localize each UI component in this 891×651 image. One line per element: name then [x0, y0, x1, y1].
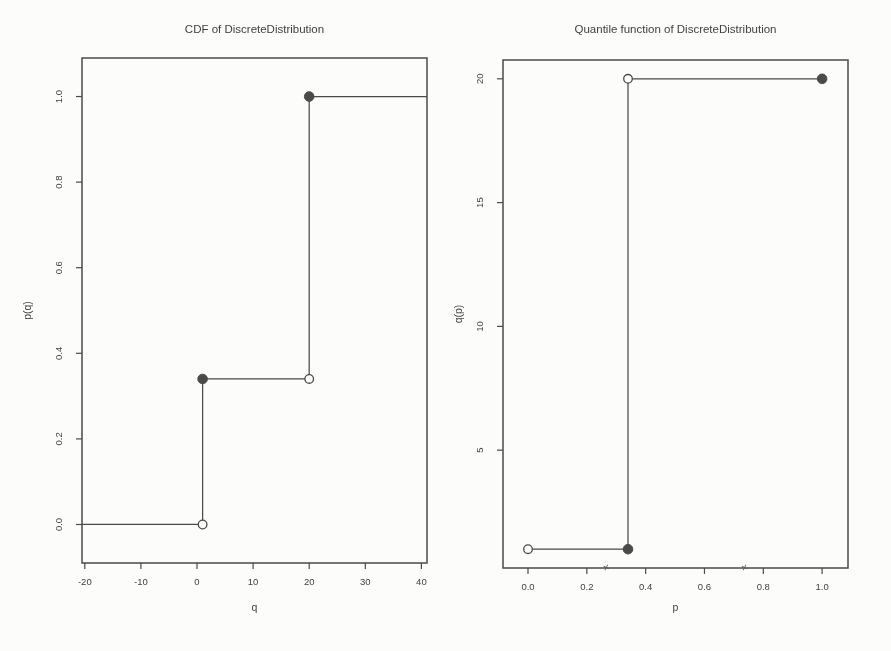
x-tick-label: -10	[134, 576, 148, 587]
x-tick-label: 40	[416, 576, 427, 587]
quantile-plot: Quantile function of DiscreteDistributio…	[452, 23, 848, 613]
y-tick-label: 0.4	[53, 347, 64, 360]
open-point	[524, 545, 533, 554]
y-tick-label: 10	[474, 321, 485, 332]
plot-box	[82, 58, 427, 563]
plot-box	[503, 60, 848, 568]
x-tick-label: -20	[78, 576, 92, 587]
y-axis-label: q(p)	[452, 305, 464, 324]
y-tick-label: 0.0	[53, 518, 64, 531]
open-point	[198, 520, 207, 529]
y-tick-label: 15	[474, 197, 485, 208]
x-tick-label: 0.6	[698, 581, 711, 592]
x-tick-label: 20	[304, 576, 315, 587]
x-tick-label: 1.0	[816, 581, 829, 592]
y-tick-label: 1.0	[53, 90, 64, 103]
x-tick-label: 0.0	[521, 581, 534, 592]
y-tick-label: 0.2	[53, 432, 64, 445]
x-tick-label: 10	[248, 576, 259, 587]
cdf-plot: CDF of DiscreteDistribution-20-100102030…	[21, 23, 427, 613]
x-tick-label: 0.4	[639, 581, 652, 592]
y-tick-label: 0.8	[53, 176, 64, 189]
y-axis-label: p(q)	[21, 301, 33, 320]
plots-canvas: CDF of DiscreteDistribution-20-100102030…	[0, 0, 891, 651]
plot-title: CDF of DiscreteDistribution	[185, 23, 324, 35]
x-tick-label: 0.8	[757, 581, 770, 592]
filled-point	[198, 374, 208, 384]
scanned-page: CDF of DiscreteDistribution-20-100102030…	[0, 0, 891, 651]
x-tick-label: 0.2	[580, 581, 593, 592]
open-point	[624, 75, 633, 84]
x-axis-label: q	[252, 601, 258, 613]
filled-point	[623, 544, 633, 554]
y-tick-label: 20	[474, 74, 485, 85]
x-tick-label: 0	[194, 576, 199, 587]
x-axis-label: p	[673, 601, 679, 613]
filled-point	[817, 74, 827, 84]
axis-artifact-mark: ×	[739, 560, 749, 573]
filled-point	[304, 92, 314, 102]
x-tick-label: 30	[360, 576, 371, 587]
axis-artifact-mark: ×	[601, 560, 611, 573]
y-tick-label: 5	[474, 448, 485, 453]
plot-title: Quantile function of DiscreteDistributio…	[575, 23, 777, 35]
open-point	[305, 375, 314, 384]
y-tick-label: 0.6	[53, 261, 64, 274]
